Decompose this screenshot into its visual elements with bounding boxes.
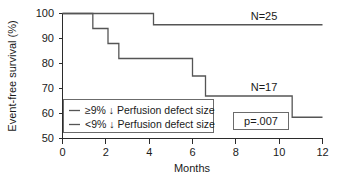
curves-group xyxy=(63,14,323,118)
pvalue-label: p=.007 xyxy=(244,115,278,127)
y-tick-label-80: 80 xyxy=(42,57,54,69)
annotation-n-upper: N=25 xyxy=(251,10,278,22)
y-axis-title: Event-free survival (%) xyxy=(6,20,18,131)
y-tick-label-100: 100 xyxy=(36,7,54,19)
x-tick-label-12: 12 xyxy=(316,146,328,158)
x-tick-label-6: 6 xyxy=(189,146,195,158)
x-axis-ticks: 0 2 4 6 8 10 12 xyxy=(59,139,328,159)
legend-label-low: <9% ↓ Perfusion defect size xyxy=(85,118,215,130)
x-tick-label-2: 2 xyxy=(103,146,109,158)
y-tick-label-90: 90 xyxy=(42,32,54,44)
x-tick-label-10: 10 xyxy=(273,146,285,158)
annotation-n-lower: N=17 xyxy=(251,81,278,93)
y-axis-ticks: 100 90 80 70 60 50 xyxy=(36,7,63,144)
x-tick-label-4: 4 xyxy=(146,146,152,158)
x-tick-label-8: 8 xyxy=(233,146,239,158)
pvalue-box: p=.007 xyxy=(234,113,289,130)
y-tick-label-70: 70 xyxy=(42,82,54,94)
x-tick-label-0: 0 xyxy=(59,146,65,158)
survival-curve-high-reduction xyxy=(63,14,323,25)
y-tick-label-60: 60 xyxy=(42,107,54,119)
survival-curve-low-reduction xyxy=(63,14,323,118)
survival-chart-canvas: 100 90 80 70 60 50 0 2 4 6 8 10 12 Month… xyxy=(0,0,337,176)
kaplan-meier-figure: 100 90 80 70 60 50 0 2 4 6 8 10 12 Month… xyxy=(0,0,337,176)
legend: ≥9% ↓ Perfusion defect size <9% ↓ Perfus… xyxy=(64,100,216,133)
x-axis-title: Months xyxy=(174,162,211,174)
y-tick-label-50: 50 xyxy=(42,132,54,144)
legend-label-high: ≥9% ↓ Perfusion defect size xyxy=(85,104,215,116)
